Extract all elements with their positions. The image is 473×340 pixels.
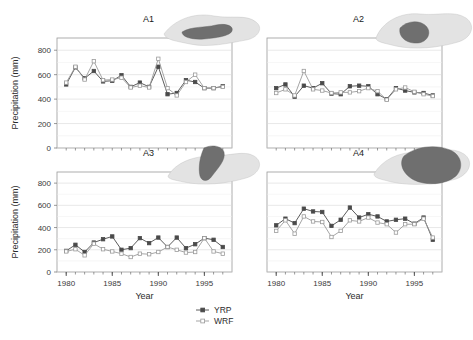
- panel-a4: 1980198519901995YearA4: [267, 147, 470, 301]
- data-point-a4-yrp-1984: [311, 210, 314, 213]
- yaxis-title-a3: Precipitation (mm): [10, 185, 20, 258]
- data-point-a4-wrf-1995: [413, 223, 416, 226]
- data-point-a4-yrp-1986: [330, 224, 333, 227]
- inset-map-a4: [374, 147, 470, 185]
- data-point-a1-wrf-1989: [147, 86, 150, 89]
- legend: YRPWRF: [196, 305, 233, 326]
- data-point-a4-wrf-1989: [357, 220, 360, 223]
- data-point-a3-wrf-1994: [193, 250, 196, 253]
- panel-label-a3: A3: [143, 148, 154, 158]
- data-point-a2-wrf-1995: [413, 90, 416, 93]
- data-point-a2-yrp-1981: [284, 83, 287, 86]
- data-point-a3-yrp-1996: [212, 238, 215, 241]
- data-point-a2-wrf-1996: [422, 93, 425, 96]
- data-point-a1-yrp-1991: [166, 93, 169, 96]
- ytick-label-800: 800: [38, 179, 52, 188]
- data-point-a2-wrf-1980: [275, 91, 278, 94]
- data-point-a3-wrf-1986: [120, 252, 123, 255]
- data-point-a3-wrf-1989: [147, 253, 150, 256]
- data-point-a1-wrf-1980: [65, 81, 68, 84]
- legend-label-yrp: YRP: [214, 305, 232, 315]
- data-point-a3-yrp-1993: [184, 246, 187, 249]
- data-point-a1-wrf-1997: [221, 85, 224, 88]
- data-point-a2-wrf-1993: [394, 88, 397, 91]
- data-point-a3-wrf-1982: [83, 254, 86, 257]
- data-point-a2-wrf-1992: [385, 98, 388, 101]
- data-point-a1-wrf-1987: [129, 86, 132, 89]
- ytick-label-200: 200: [38, 246, 52, 255]
- data-point-a1-yrp-1994: [193, 80, 196, 83]
- data-point-a4-wrf-1994: [403, 223, 406, 226]
- data-point-a3-wrf-1984: [101, 248, 104, 251]
- data-point-a3-wrf-1993: [184, 251, 187, 254]
- panel-label-a1: A1: [143, 14, 154, 24]
- data-point-a4-wrf-1992: [385, 223, 388, 226]
- panel-label-a2: A2: [353, 14, 364, 24]
- inset-map-a2: [376, 14, 472, 48]
- xtick-label-1990: 1990: [359, 279, 377, 288]
- data-point-a3-yrp-1987: [129, 246, 132, 249]
- data-point-a3-yrp-1997: [221, 245, 224, 248]
- data-point-a2-yrp-1989: [357, 84, 360, 87]
- data-point-a2-yrp-1983: [302, 84, 305, 87]
- panel-label-a4: A4: [353, 148, 364, 158]
- data-point-a4-wrf-1983: [302, 215, 305, 218]
- data-point-a2-wrf-1994: [403, 86, 406, 89]
- data-point-a3-yrp-1990: [157, 236, 160, 239]
- data-point-a3-yrp-1992: [175, 236, 178, 239]
- data-point-a3-yrp-1985: [111, 235, 114, 238]
- data-point-a1-wrf-1991: [166, 86, 169, 89]
- data-point-a1-wrf-1983: [92, 60, 95, 63]
- legend-label-wrf: WRF: [214, 316, 233, 326]
- data-point-a2-wrf-1983: [302, 69, 305, 72]
- data-point-a2-yrp-1985: [321, 82, 324, 85]
- data-point-a3-wrf-1983: [92, 242, 95, 245]
- xtick-label-1995: 1995: [405, 279, 423, 288]
- data-point-a4-wrf-1990: [367, 216, 370, 219]
- ytick-label-400: 400: [38, 95, 52, 104]
- plot-frame-a1: [57, 38, 232, 148]
- data-point-a4-wrf-1991: [376, 221, 379, 224]
- precipitation-figure: 0200400600800Precipitation (mm)A1A202004…: [0, 0, 473, 340]
- data-point-a1-yrp-1983: [92, 69, 95, 72]
- xtick-label-1980: 1980: [57, 279, 75, 288]
- data-point-a2-wrf-1981: [284, 88, 287, 91]
- data-point-a4-wrf-1986: [330, 235, 333, 238]
- data-point-a3-wrf-1988: [138, 252, 141, 255]
- data-point-a3-yrp-1981: [74, 243, 77, 246]
- ytick-label-400: 400: [38, 224, 52, 233]
- xtick-label-1995: 1995: [195, 279, 213, 288]
- data-point-a4-yrp-1980: [275, 224, 278, 227]
- data-point-a1-wrf-1993: [184, 80, 187, 83]
- data-point-a1-wrf-1988: [138, 84, 141, 87]
- ytick-label-600: 600: [38, 201, 52, 210]
- data-point-a4-yrp-1994: [403, 217, 406, 220]
- data-point-a4-wrf-1984: [311, 220, 314, 223]
- data-point-a3-wrf-1985: [111, 250, 114, 253]
- ytick-label-0: 0: [47, 144, 52, 153]
- data-point-a2-wrf-1985: [321, 89, 324, 92]
- data-point-a3-yrp-1984: [101, 238, 104, 241]
- data-point-a2-wrf-1991: [376, 89, 379, 92]
- data-point-a1-wrf-1992: [175, 94, 178, 97]
- data-point-a4-wrf-1981: [284, 219, 287, 222]
- data-point-a2-wrf-1988: [348, 91, 351, 94]
- data-point-a2-yrp-1980: [275, 86, 278, 89]
- data-point-a1-wrf-1994: [193, 73, 196, 76]
- data-point-a3-wrf-1987: [129, 255, 132, 258]
- data-point-a4-yrp-1983: [302, 207, 305, 210]
- data-point-a4-wrf-1997: [431, 236, 434, 239]
- data-point-a3-wrf-1990: [157, 250, 160, 253]
- data-point-a2-wrf-1984: [311, 88, 314, 91]
- data-point-a3-wrf-1980: [65, 250, 68, 253]
- data-point-a4-wrf-1987: [339, 229, 342, 232]
- data-point-a4-yrp-1988: [348, 206, 351, 209]
- data-point-a2-wrf-1990: [367, 86, 370, 89]
- data-point-a1-wrf-1984: [101, 78, 104, 81]
- data-point-a1-wrf-1982: [83, 78, 86, 81]
- data-point-a3-yrp-1989: [147, 241, 150, 244]
- data-point-a4-yrp-1990: [367, 213, 370, 216]
- data-point-a1-wrf-1990: [157, 57, 160, 60]
- data-point-a4-yrp-1993: [394, 218, 397, 221]
- data-point-a4-yrp-1991: [376, 215, 379, 218]
